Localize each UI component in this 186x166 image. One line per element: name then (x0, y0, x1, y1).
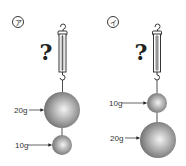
weight-20g-a (44, 92, 80, 128)
svg-text:ア: ア (15, 19, 22, 27)
weight-10g-i (147, 93, 167, 113)
spring-scale-i (153, 24, 162, 93)
weight-label-20g-a: 20g (14, 106, 27, 115)
weight-10g-a (52, 135, 72, 155)
question-mark-a: ? (40, 39, 53, 65)
panel-a-label: ア (13, 17, 24, 28)
weight-label-10g-i: 10g (109, 99, 122, 108)
panel-i-label: イ (108, 17, 119, 28)
weight-label-10g-a: 10g (15, 141, 28, 150)
weight-20g-i (140, 122, 176, 158)
svg-text:イ: イ (110, 19, 117, 27)
spring-scale-diagram: ア ? (0, 0, 186, 166)
question-mark-i: ? (135, 39, 148, 65)
weight-label-20g-i: 20g (110, 134, 123, 143)
panel-i: イ ? 10g (108, 17, 177, 159)
spring-scale-a (58, 24, 67, 93)
panel-a: ア ? (13, 17, 81, 156)
